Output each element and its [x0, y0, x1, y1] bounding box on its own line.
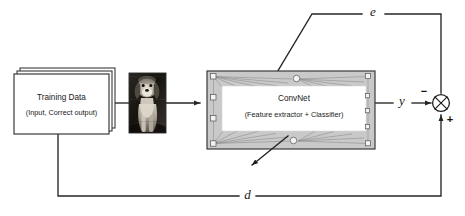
convnet-node[interactable]: ConvNet (Feature extractor + Classifier) [207, 71, 375, 149]
convnet-hub-node-bottom [290, 137, 297, 144]
convnet-node-right-2 [365, 94, 369, 98]
wire-sum-to-error-top [385, 14, 441, 93]
convnet-node-left-3 [211, 116, 216, 121]
sample-image-thumbnail[interactable] [125, 73, 169, 139]
signal-label-y: y [397, 93, 405, 108]
convnet-node-right-5 [365, 141, 370, 146]
convnet-node-left-2 [211, 95, 216, 100]
diagram-canvas: Training Data (Input, Correct output) [0, 0, 465, 216]
convnet-label-plate [222, 86, 366, 131]
sign-minus: − [421, 85, 427, 97]
training-data-front-sheet [14, 74, 109, 134]
training-data-sublabel: (Input, Correct output) [26, 108, 97, 117]
sample-image-content [125, 73, 169, 139]
signal-label-e: e [370, 4, 376, 19]
convnet-node-right-3 [365, 109, 369, 113]
training-data-node[interactable]: Training Data (Input, Correct output) [14, 68, 115, 134]
sign-plus: + [447, 113, 453, 125]
sum-junction-node[interactable] [433, 95, 450, 112]
convnet-label: ConvNet [278, 94, 311, 103]
convnet-hub-node-top [293, 75, 300, 82]
convnet-sublabel: (Feature extractor + Classifier) [245, 110, 344, 119]
convnet-node-left-4 [211, 141, 216, 146]
convnet-node-left-1 [211, 74, 216, 79]
convnet-node-right-1 [365, 74, 370, 79]
signal-label-d: d [244, 187, 251, 202]
convnet-node-right-4 [365, 125, 369, 129]
training-data-label: Training Data [37, 93, 86, 102]
diagram-svg: Training Data (Input, Correct output) [0, 0, 465, 216]
